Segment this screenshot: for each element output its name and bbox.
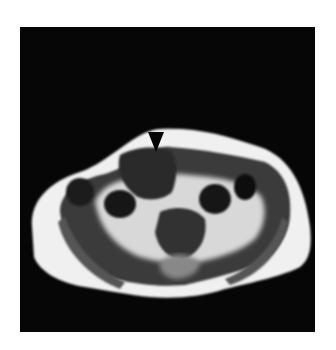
mri-image [20, 27, 315, 332]
mri-scan-graphic [20, 27, 315, 332]
